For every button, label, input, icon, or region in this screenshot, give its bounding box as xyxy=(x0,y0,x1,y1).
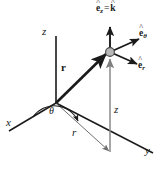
scalar-label-z: z xyxy=(114,104,118,115)
k-glyph-with-hat: ^k xyxy=(110,4,115,14)
axis-label-z: z xyxy=(42,26,46,37)
equals-sign: = xyxy=(103,3,110,13)
particle-point xyxy=(106,48,115,57)
e-glyph-with-hat: ^e xyxy=(96,4,100,14)
axis-y xyxy=(56,103,153,153)
axis-label-x: x xyxy=(6,117,11,128)
caption-strip xyxy=(0,166,164,176)
caption-text xyxy=(0,173,4,176)
e-glyph-with-hat: ^e xyxy=(139,29,143,39)
unit-vector-label-e-r: ^er xyxy=(138,61,145,72)
e-subscript-theta: θ xyxy=(143,32,147,40)
scalar-label-r: r xyxy=(72,127,76,138)
hat-accent-icon: ^ xyxy=(96,0,100,7)
axis-label-y: y xyxy=(145,145,150,156)
e-subscript-r: r xyxy=(142,64,145,72)
hat-accent-icon: ^ xyxy=(111,0,115,7)
angle-label-theta: θ xyxy=(49,106,54,116)
unit-vector-label-e-z-equals-k: ^ez=^k xyxy=(96,4,116,15)
hat-accent-icon: ^ xyxy=(139,24,143,32)
e-glyph-with-hat: ^e xyxy=(138,61,142,71)
unit-vectors-group xyxy=(110,27,139,64)
figure-root: z x y r θ z r ^ez=^k ^eθ ^er xyxy=(0,0,164,176)
vector-label-r: r xyxy=(61,62,66,73)
unit-vector-label-e-theta: ^eθ xyxy=(139,29,147,40)
hat-accent-icon: ^ xyxy=(138,56,142,64)
axes-group xyxy=(9,36,153,153)
